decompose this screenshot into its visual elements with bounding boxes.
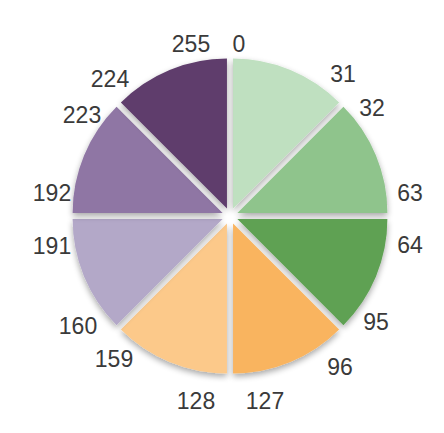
slice-boundary-label: 224	[91, 68, 129, 91]
slice-boundary-label: 0	[233, 33, 246, 56]
slice-boundary-label: 64	[397, 234, 423, 257]
slice-boundary-label: 31	[330, 63, 356, 86]
slice-boundary-label: 95	[363, 311, 389, 334]
slice-boundary-label: 127	[246, 390, 284, 413]
pie-chart	[0, 0, 444, 433]
slice-boundary-label: 128	[177, 390, 215, 413]
slice-boundary-label: 223	[63, 104, 101, 127]
slice-boundary-label: 160	[59, 315, 97, 338]
slice-boundary-label: 191	[33, 235, 71, 258]
slice-boundary-label: 32	[359, 97, 385, 120]
slice-boundary-label: 192	[33, 182, 71, 205]
slice-boundary-label: 255	[172, 33, 210, 56]
slice-boundary-label: 96	[327, 356, 353, 379]
slice-boundary-label: 63	[397, 182, 423, 205]
slice-boundary-label: 159	[95, 348, 133, 371]
